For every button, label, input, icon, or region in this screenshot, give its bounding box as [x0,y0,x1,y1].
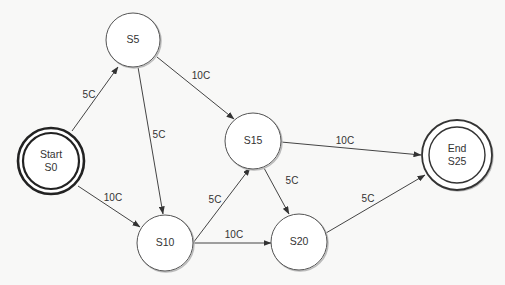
edge-label-s20-s25: 5C [362,193,375,204]
state-label-s25: S25 [448,155,467,167]
edge-label-s10-s20: 10C [225,229,243,240]
state-s10: S10 [137,215,194,272]
edge-label-s0-s5: 5C [83,89,96,100]
state-s20: S20 [271,214,328,271]
state-label-start: Start [40,148,62,160]
state-label-s5: S5 [127,33,140,45]
state-label-end: End [448,142,467,154]
edge-label-s5-s10: 5C [153,129,166,140]
edge-label-s10-s15: 5C [209,194,222,205]
edge-s5-to-s10 [138,67,163,214]
edge-label-s15-s25: 10C [336,135,354,146]
edge-label-s0-s10: 10C [104,192,122,203]
state-label-s0: S0 [45,161,58,173]
state-label-s15: S15 [244,134,263,146]
state-label-s20: S20 [290,235,309,247]
edge-s20-to-s25 [326,175,425,233]
state-label-s10: S10 [156,236,175,248]
state-s5: S5 [106,13,161,68]
state-diagram-canvas: 5C 10C 5C 10C 5C 10C 5C 10C 5C Start S0 … [0,0,505,285]
state-end-s25: End S25 [422,120,493,191]
edge-s5-to-s15 [157,57,234,119]
edge-label-s5-s15: 10C [192,70,210,81]
state-start-s0: Start S0 [18,128,84,194]
state-s15: S15 [225,113,282,170]
edge-label-s15-s20: 5C [286,175,299,186]
state-diagram: 5C 10C 5C 10C 5C 10C 5C 10C 5C Start S0 … [0,0,505,285]
